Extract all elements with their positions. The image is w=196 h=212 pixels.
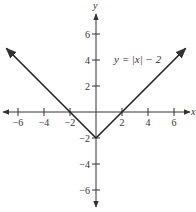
- y-axis-label: y: [92, 0, 98, 11]
- equation-label: y = |x| − 2: [113, 53, 162, 65]
- y-tick-label: 6: [85, 29, 90, 40]
- y-tick-label: −6: [79, 185, 90, 196]
- x-axis-label: x: [190, 106, 196, 117]
- x-tick-label: 6: [172, 117, 177, 128]
- y-tick-label: 4: [85, 55, 90, 66]
- x-tick-label: −2: [65, 117, 76, 128]
- x-tick-label: 2: [120, 117, 125, 128]
- x-tick-label: 4: [146, 117, 151, 128]
- x-tick-label: −6: [13, 117, 24, 128]
- y-tick-label: 2: [85, 81, 90, 92]
- y-tick-label: −4: [79, 159, 90, 170]
- y-tick-label: −2: [79, 133, 90, 144]
- graph: −6−4−2246642−2−4−6 x y y = |x| − 2: [0, 0, 196, 212]
- axes: [3, 14, 190, 207]
- x-tick-label: −4: [39, 117, 50, 128]
